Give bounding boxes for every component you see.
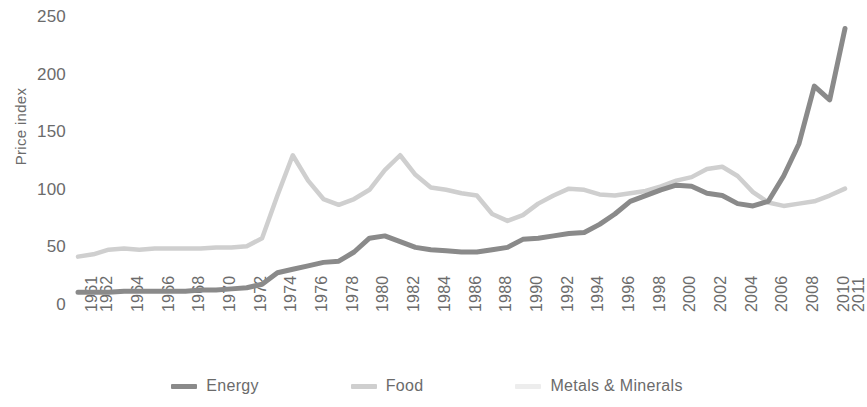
chart-legend: Energy Food Metals & Minerals [0,371,854,401]
legend-label-metals-minerals: Metals & Minerals [550,377,682,395]
legend-item-metals-minerals[interactable]: Metals & Minerals [515,377,682,395]
legend-swatch-food [351,384,377,389]
legend-item-food[interactable]: Food [351,377,424,395]
legend-swatch-metals-minerals [515,384,541,389]
series-line-energy [78,29,845,293]
series-line-food [78,155,845,256]
series-lines [78,29,845,293]
legend-label-energy: Energy [206,377,259,395]
legend-label-food: Food [386,377,424,395]
legend-item-energy[interactable]: Energy [171,377,259,395]
legend-swatch-energy [171,384,197,389]
